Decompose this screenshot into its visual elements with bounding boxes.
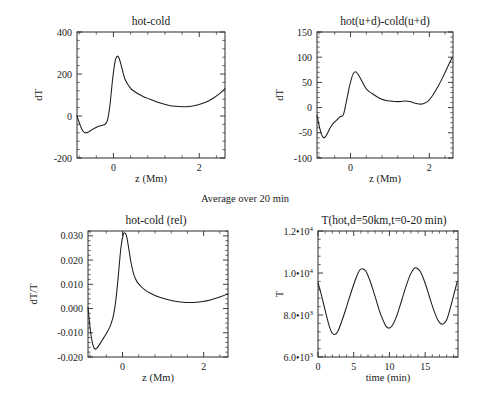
svg-text:50: 50 (302, 77, 312, 88)
panel-top-right-ylabel: dT (274, 89, 285, 101)
panel-top-right-xlabel: z (Mm) (369, 173, 401, 185)
svg-text:1.2•104: 1.2•104 (283, 225, 313, 237)
figure-background (0, 0, 477, 411)
svg-text:0.010: 0.010 (61, 279, 84, 290)
panel-top-right-title: hot(u+d)-cold(u+d) (340, 15, 430, 28)
svg-text:0: 0 (307, 102, 312, 113)
svg-text:100: 100 (297, 52, 312, 63)
svg-text:8.0•103: 8.0•103 (283, 309, 313, 321)
svg-text:2: 2 (427, 162, 432, 173)
panel-top-left-ylabel: dT (33, 89, 44, 101)
svg-text:0: 0 (120, 361, 125, 372)
svg-text:-0.020: -0.020 (57, 352, 83, 363)
svg-text:0.030: 0.030 (61, 230, 84, 241)
panel-top-left-title: hot-cold (132, 15, 171, 27)
svg-text:0: 0 (67, 111, 72, 122)
svg-text:2: 2 (197, 162, 202, 173)
svg-text:0: 0 (316, 361, 321, 372)
panel-bottom-right-xlabel: time (min) (366, 372, 411, 384)
svg-text:200: 200 (57, 69, 72, 80)
svg-text:15: 15 (420, 361, 430, 372)
svg-text:150: 150 (297, 27, 312, 38)
panel-top-left-xlabel: z (Mm) (135, 173, 167, 185)
figure-container: hot-cold -2000200400 02 z (Mm) dT hot(u+… (0, 0, 477, 411)
svg-text:-0.010: -0.010 (57, 327, 83, 338)
panel-bottom-left-xlabel: z (Mm) (142, 372, 174, 384)
center-note: Average over 20 min (201, 193, 290, 204)
panel-bottom-left-ylabel: dT/T (28, 283, 39, 305)
svg-text:0: 0 (348, 162, 353, 173)
panel-bottom-right-title: T(hot,d=50km,t=0-20 min) (321, 214, 446, 227)
svg-text:-100: -100 (294, 153, 312, 164)
panel-bottom-left-title: hot-cold (rel) (126, 214, 187, 227)
panel-bottom-right-ylabel: T (274, 290, 285, 297)
svg-text:400: 400 (57, 27, 72, 38)
svg-text:6.0•103: 6.0•103 (283, 351, 313, 363)
svg-text:5: 5 (351, 361, 356, 372)
svg-text:-200: -200 (54, 153, 72, 164)
svg-text:0: 0 (111, 162, 116, 173)
svg-text:10: 10 (384, 361, 394, 372)
svg-text:-50: -50 (299, 127, 312, 138)
svg-text:0.020: 0.020 (61, 255, 84, 266)
svg-text:1.0•104: 1.0•104 (283, 267, 313, 279)
svg-text:2: 2 (201, 361, 206, 372)
svg-text:0.000: 0.000 (61, 303, 84, 314)
multi-panel-figure: hot-cold -2000200400 02 z (Mm) dT hot(u+… (0, 0, 477, 411)
